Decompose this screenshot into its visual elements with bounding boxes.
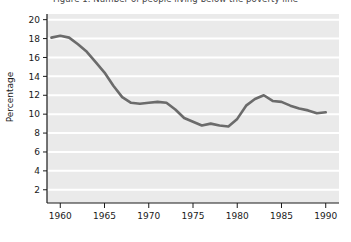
svg-text:1975: 1975 <box>182 211 205 221</box>
y-axis-ticks: 2468101214161820 <box>29 15 47 195</box>
svg-text:12: 12 <box>29 90 40 100</box>
svg-text:14: 14 <box>29 72 41 82</box>
svg-text:20: 20 <box>29 15 41 25</box>
plot-area: 2468101214161820 19601965197019751980198… <box>0 0 351 242</box>
svg-text:1960: 1960 <box>49 211 72 221</box>
x-axis-ticks: 1960196519701975198019851990 <box>49 203 338 221</box>
svg-text:1980: 1980 <box>226 211 249 221</box>
svg-text:2: 2 <box>34 185 40 195</box>
svg-text:1985: 1985 <box>270 211 293 221</box>
poverty-line-chart: Figure 1. Number of people living below … <box>0 0 351 242</box>
svg-text:1965: 1965 <box>93 211 116 221</box>
svg-text:1990: 1990 <box>314 211 337 221</box>
svg-text:4: 4 <box>34 166 40 176</box>
svg-text:18: 18 <box>29 34 41 44</box>
svg-text:10: 10 <box>29 109 41 119</box>
svg-text:6: 6 <box>34 147 40 157</box>
svg-text:8: 8 <box>34 128 40 138</box>
svg-text:1970: 1970 <box>137 211 160 221</box>
svg-text:16: 16 <box>29 53 41 63</box>
